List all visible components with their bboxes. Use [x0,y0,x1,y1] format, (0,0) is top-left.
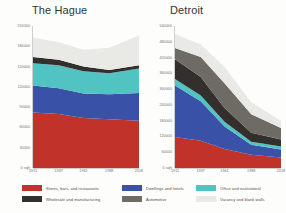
y-tick-label: 150000 [17,65,30,69]
legend: Stores, bars, and restaurantsWholesale a… [0,183,286,211]
x-tick-label: 1988 [105,169,113,173]
y-tick-label: 60000 [162,150,173,154]
legend-item[interactable]: Stores, bars, and restaurants [22,183,122,193]
x-tick-label: 1911 [29,169,37,173]
chart-title-the-hague: The Hague [32,4,87,16]
area-series-stores-bars-and-restaurants [33,113,139,168]
x-tick-label: 2018 [277,169,285,173]
legend-column-3: Office and institutionalVacancy and blan… [196,183,286,205]
y-axis-line [32,26,33,168]
x-axis-the-hague: 19111937196219882018 [33,169,139,179]
chart-title-detroit: Detroit [170,4,203,16]
y-tick-label: 420000 [159,56,172,60]
legend-swatch-icon [22,196,42,202]
x-tick-label: 1962 [79,169,87,173]
legend-column-2: Dwellings and hotelsAutomotive [122,183,196,205]
y-tick-label: 120000 [17,85,30,89]
legend-label: Stores, bars, and restaurants [46,186,99,191]
plot-area-detroit [175,26,281,168]
legend-label: Office and institutional [220,186,261,191]
legend-swatch-icon [122,196,142,202]
legend-label: Vacancy and blank walls [220,197,265,202]
y-tick-label: 120000 [159,134,172,138]
legend-swatch-icon [122,185,142,191]
legend-item[interactable]: Office and institutional [196,183,286,193]
x-tick-label: 1961 [220,169,228,173]
x-tick-label: 1937 [197,169,205,173]
figure-root: The Hague Detroit 0 sqft3000060000900001… [0,0,286,213]
x-tick-label: 1911 [171,169,179,173]
x-axis-line [33,168,139,169]
x-tick-label: 1937 [55,169,63,173]
y-tick-label: 480000 [159,40,172,44]
legend-item[interactable]: Vacancy and blank walls [196,194,286,204]
x-tick-label: 2018 [135,169,143,173]
x-axis-line [175,168,281,169]
legend-label: Dwellings and hotels [146,186,184,191]
x-axis-detroit: 19111937196119882018 [175,169,281,179]
y-tick-label: 540000 [159,24,172,28]
y-tick-label: 360000 [159,71,172,75]
y-tick-label: 300000 [159,87,172,91]
y-tick-label: 210000 [17,24,30,28]
legend-column-1: Stores, bars, and restaurantsWholesale a… [22,183,122,205]
x-tick-label: 1988 [247,169,255,173]
y-tick-label: 30000 [20,146,31,150]
y-axis-detroit: 0 sqft6000012000018000024000030000036000… [141,26,174,168]
y-tick-label: 240000 [159,103,172,107]
y-tick-label: 60000 [20,125,31,129]
legend-item[interactable]: Dwellings and hotels [122,183,196,193]
y-tick-label: 180000 [17,44,30,48]
stacked-area-the-hague [33,26,139,168]
legend-swatch-icon [22,185,42,191]
legend-label: Automotive [146,197,166,202]
plot-area-the-hague [33,26,139,168]
legend-swatch-icon [196,185,216,191]
y-axis-the-hague: 0 sqft3000060000900001200001500001800002… [0,26,32,168]
legend-item[interactable]: Wholesale and manufacturing [22,194,122,204]
legend-label: Wholesale and manufacturing [46,197,100,202]
legend-item[interactable]: Automotive [122,194,196,204]
y-tick-label: 90000 [20,105,31,109]
y-axis-line [174,26,175,168]
y-tick-label: 180000 [159,119,172,123]
stacked-area-detroit [175,26,281,168]
legend-swatch-icon [196,196,216,202]
